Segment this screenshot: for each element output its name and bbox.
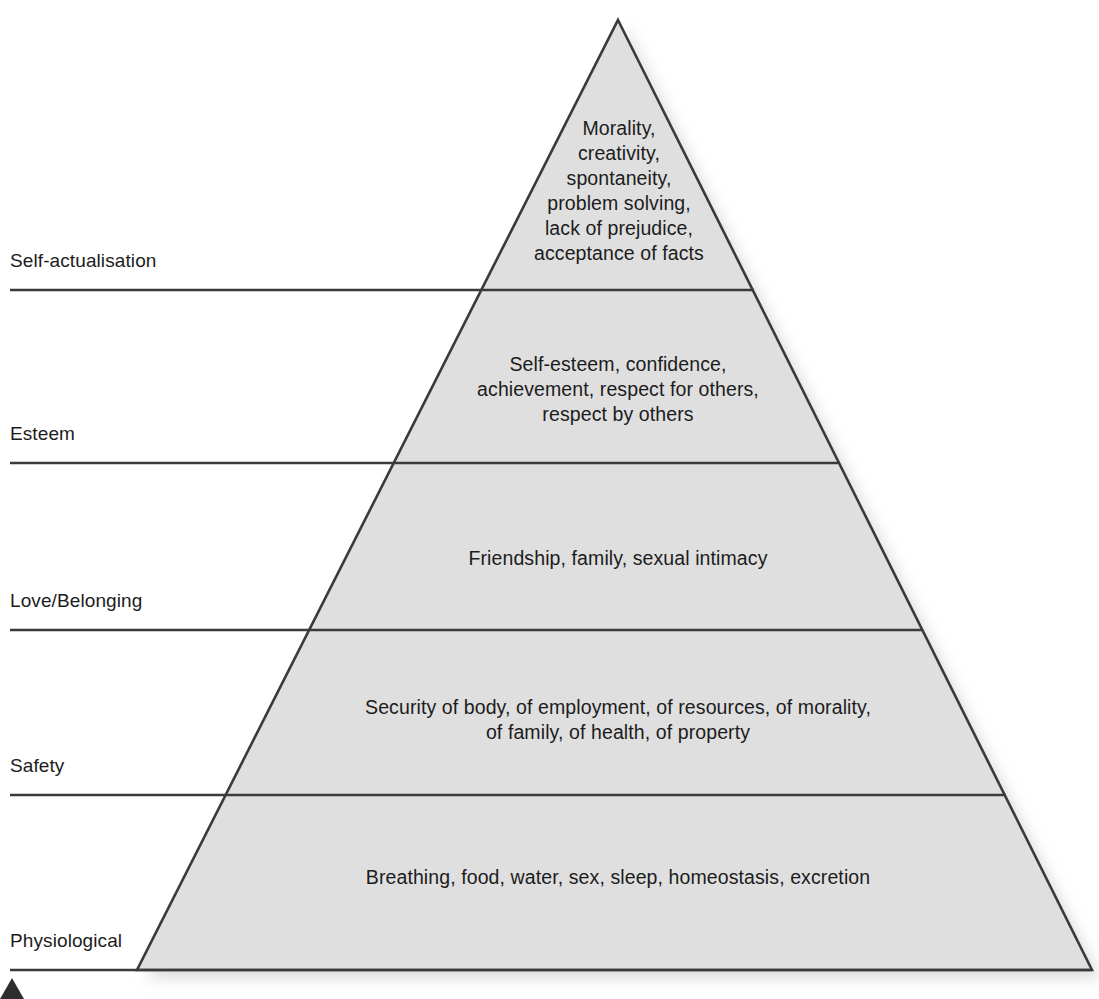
tier-label-physiological: Physiological (10, 930, 122, 952)
tier-label-self-actualisation: Self-actualisation (10, 250, 157, 272)
tier-description-self-actualisation: Morality, creativity, spontaneity, probl… (449, 116, 789, 266)
tier-description-love-belonging: Friendship, family, sexual intimacy (318, 546, 918, 571)
caption-marker-triangle-icon (0, 978, 24, 999)
tier-label-love-belonging: Love/Belonging (10, 590, 142, 612)
maslow-pyramid-diagram: Self-actualisation Esteem Love/Belonging… (0, 0, 1099, 999)
tier-label-esteem: Esteem (10, 423, 75, 445)
tier-description-physiological: Breathing, food, water, sex, sleep, home… (188, 865, 1048, 890)
tier-description-safety: Security of body, of employment, of reso… (238, 695, 998, 745)
tier-label-safety: Safety (10, 755, 64, 777)
tier-description-esteem: Self-esteem, confidence, achievement, re… (378, 352, 858, 427)
